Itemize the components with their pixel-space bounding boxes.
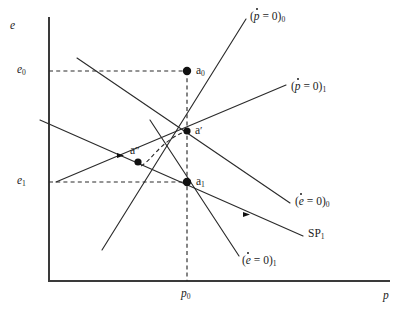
point-label-a-prime-mark: ′ [200,124,202,136]
y-tick-e1-sub: 1 [22,179,26,188]
curve-label-sp-1: SP1 [308,228,325,240]
y-axis-label: e [10,20,15,32]
curve-label-edot-0-eq: = 0) [304,195,326,207]
point-label-a-double-prime-mark: ″ [135,144,140,156]
curve-label-edot-1: (e = 0)1 [242,255,277,267]
point-a1 [183,178,191,186]
point-a-prime [183,127,190,134]
curve-label-edot-0-sub: 0 [326,200,330,209]
point-label-a0: a0 [196,65,205,77]
x-tick-p0-sub: 0 [187,292,191,301]
curve-label-pdot-0: (p = 0)0 [250,11,285,23]
y-tick-e1: e1 [17,175,26,187]
curve-label-edot-0: (e = 0)0 [295,196,330,208]
curve-label-pdot-0-sub: 0 [281,15,285,24]
y-tick-e0-sub: 0 [22,68,26,77]
curve-label-edot-1-eq: = 0) [251,254,273,266]
diagram-canvas [0,0,401,318]
curve-label-edot-0-var: e [299,196,304,208]
curve-label-pdot-0-var: p [254,11,260,23]
point-label-a-prime: a′ [195,125,203,137]
point-a0 [183,67,191,75]
curve-label-pdot-0-eq: = 0) [260,10,282,22]
point-label-a1-sub: 1 [201,180,205,189]
curve-pdot-1 [56,85,286,182]
x-axis-label: p [383,290,389,302]
x-tick-p0: p0 [181,288,191,300]
curve-label-sp-1-base: SP [308,227,321,239]
point-label-a0-sub: 0 [201,69,205,78]
y-tick-e0: e0 [17,64,26,76]
curve-label-edot-1-var: e [246,255,251,267]
curve-label-pdot-1-eq: = 0) [301,80,323,92]
curve-label-edot-1-sub: 1 [273,259,277,268]
point-label-a1: a1 [196,176,205,188]
curve-label-pdot-1-sub: 1 [322,85,326,94]
curve-label-sp-1-sub: 1 [321,232,325,241]
curve-label-pdot-1: (p = 0)1 [291,81,326,93]
curve-label-pdot-1-var: p [295,81,301,93]
phase-diagram-figure: e p e0 e1 p0 (p = 0)0 (p = 0)1 (e = 0)0 … [0,0,401,318]
curve-pdot-0 [102,19,246,250]
point-label-a-double-prime: a″ [130,145,140,157]
point-a-double-prime [134,158,141,165]
curve-sp-1 [40,120,303,236]
